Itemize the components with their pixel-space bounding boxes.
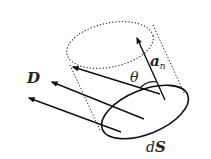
label-dS-S: S [155, 138, 166, 156]
label-theta: θ [130, 69, 139, 85]
label-D: D [26, 69, 40, 87]
label-an-a: a [150, 52, 160, 70]
d-field-arrow-1 [73, 67, 160, 94]
label-an: an [150, 52, 166, 71]
d-field-arrow-3 [29, 98, 121, 132]
flux-through-surface-diagram: D θ an dS [0, 0, 211, 159]
surface-element-ellipse [94, 74, 196, 149]
d-field-arrow-2 [52, 82, 144, 119]
label-an-sub: n [160, 61, 166, 71]
label-dS: dS [146, 138, 166, 156]
cylinder-top-ellipse [62, 14, 157, 75]
cylinder-side-left [70, 65, 100, 130]
label-dS-d: d [146, 139, 155, 155]
